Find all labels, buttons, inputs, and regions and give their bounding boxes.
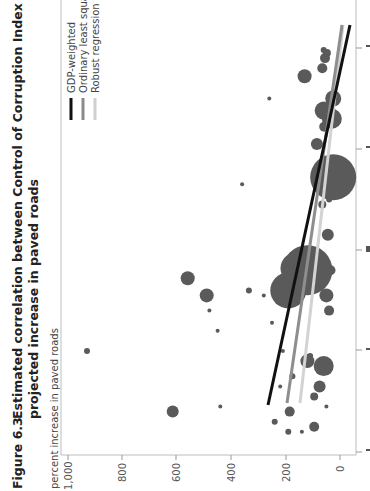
data-bubble (267, 97, 271, 101)
data-bubble (84, 348, 90, 354)
svg-text:400: 400 (226, 463, 237, 482)
index-axis-label-stubs (366, 45, 370, 451)
data-bubble (309, 422, 319, 432)
data-bubble (310, 392, 318, 400)
data-bubble (311, 138, 323, 150)
data-bubble (314, 356, 334, 376)
data-bubble (262, 293, 266, 297)
value-axis-ticks (68, 455, 340, 460)
data-bubble (278, 384, 282, 388)
data-bubble (240, 182, 244, 186)
data-bubble (320, 53, 330, 63)
figure-label: Figure 6.3 (10, 417, 25, 489)
data-bubble (285, 429, 291, 435)
title-line-2: projected increase in paved roads (26, 179, 41, 419)
data-bubble (246, 287, 252, 293)
svg-text:800: 800 (117, 463, 128, 482)
data-bubble (317, 63, 327, 73)
data-bubble (181, 271, 195, 285)
data-bubble (216, 329, 220, 333)
legend-label-ols: Ordinary least squares (78, 0, 89, 93)
data-bubble (207, 309, 211, 313)
data-bubble (285, 407, 295, 417)
y-axis-label: percent increase in paved roads (49, 328, 60, 489)
legend-label-robust: Robust regression (90, 3, 101, 93)
data-bubble (167, 406, 179, 418)
regression-lines (268, 25, 350, 405)
value-axis-labels: 1,000 800 600 400 200 0 (63, 461, 346, 490)
figure-title: Figure 6.3 Estimated correlation between… (10, 0, 60, 489)
svg-text:600: 600 (171, 463, 182, 482)
data-bubble (281, 349, 285, 353)
data-bubble (322, 229, 334, 241)
title-line-1: Estimated correlation between Control of… (10, 0, 25, 419)
legend-label-gdp: GDP-weighted (66, 22, 77, 93)
data-bubble (272, 419, 278, 425)
data-bubble (298, 69, 312, 83)
figure-chart: Figure 6.3 Estimated correlation between… (0, 0, 370, 491)
ols-line (287, 25, 342, 403)
gdp-weighted-line (268, 25, 350, 405)
svg-text:0: 0 (335, 466, 346, 472)
legend: GDP-weighted Ordinary least squares Robu… (66, 0, 101, 120)
data-bubble (326, 197, 332, 203)
data-bubble (270, 321, 274, 325)
data-bubble (307, 353, 313, 359)
data-bubble (218, 405, 222, 409)
data-bubble (300, 430, 304, 434)
data-bubble (200, 288, 214, 302)
scatter-bubbles (84, 47, 356, 435)
svg-text:1,000: 1,000 (63, 461, 74, 490)
data-bubble (314, 380, 326, 392)
svg-text:200: 200 (281, 463, 292, 482)
index-axis-ticks (356, 48, 362, 452)
data-bubble (324, 405, 328, 409)
data-bubble (324, 306, 334, 316)
